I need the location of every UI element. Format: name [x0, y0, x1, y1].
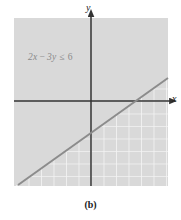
- shaded-solution-region: [14, 18, 168, 186]
- grid-overlay: [14, 18, 168, 186]
- inequality-graph-figure: 2x−3y≤6 y x (b): [0, 0, 181, 220]
- x-axis-label: x: [172, 93, 176, 104]
- figure-caption: (b): [0, 199, 181, 210]
- y-axis-label: y: [86, 2, 90, 13]
- plot-area: [14, 18, 168, 186]
